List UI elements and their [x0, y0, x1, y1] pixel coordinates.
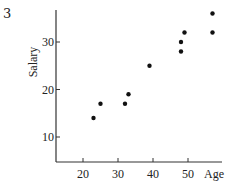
data-point	[147, 64, 151, 68]
y-ticks: 102030	[42, 35, 60, 144]
data-point	[91, 116, 95, 120]
y-tick-label: 30	[42, 35, 54, 49]
data-point	[210, 30, 214, 34]
data-point	[98, 102, 102, 106]
x-tick-label: 30	[112, 167, 124, 181]
data-point	[126, 92, 130, 96]
x-tick-label: 50	[182, 167, 194, 181]
data-point	[210, 11, 214, 15]
data-point	[182, 30, 186, 34]
x-tick-label: 20	[77, 167, 89, 181]
data-point	[179, 49, 183, 53]
clipped-caption	[3, 181, 203, 187]
data-points	[91, 11, 214, 120]
data-point	[179, 40, 183, 44]
y-tick-label: 10	[42, 130, 54, 144]
y-tick-label: 20	[42, 83, 54, 97]
data-point	[123, 102, 127, 106]
x-tick-label: 40	[147, 167, 159, 181]
axes	[56, 10, 222, 162]
x-axis-label: Age	[204, 167, 224, 181]
y-axis-label: Salary	[26, 47, 40, 78]
scatter-chart: 20304050 102030 Age Salary	[0, 0, 229, 187]
